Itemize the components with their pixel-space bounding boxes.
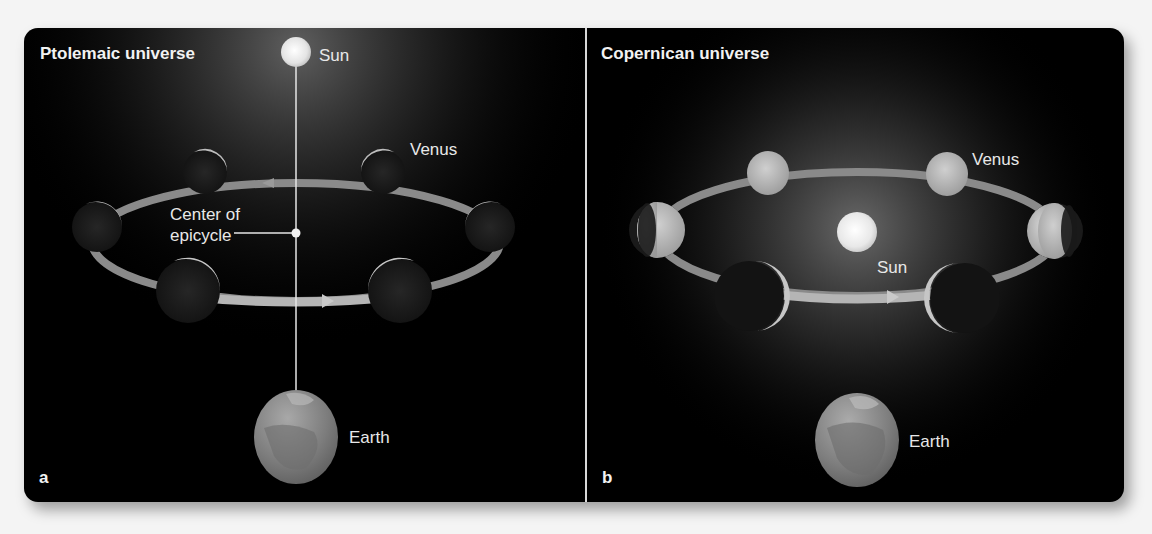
sun-icon	[837, 212, 877, 252]
earth-label: Earth	[909, 432, 950, 452]
ptolemaic-diagram	[24, 28, 585, 502]
venus-phase-full-icon	[926, 152, 968, 196]
venus-label: Venus	[410, 140, 457, 160]
sun-label: Sun	[877, 258, 907, 278]
sun-icon	[281, 37, 311, 67]
venus-phases-figure: Ptolemaic universe Sun Venus Center of e…	[24, 28, 1124, 502]
epicycle-center-dot	[292, 229, 301, 238]
sun-label: Sun	[319, 46, 349, 66]
panel-letter: a	[39, 468, 48, 488]
venus-label: Venus	[972, 150, 1019, 170]
panel-letter: b	[602, 468, 612, 488]
earth-icon	[815, 393, 899, 487]
venus-phase-gibbous-icon	[629, 202, 685, 258]
center-of-epicycle-label-line1: Center of	[170, 205, 240, 225]
copernican-diagram	[587, 28, 1124, 502]
earth-label: Earth	[349, 428, 390, 448]
panel-title: Ptolemaic universe	[40, 44, 195, 64]
venus-phase-gibbous-icon	[1027, 203, 1083, 259]
venus-phase-full-icon	[747, 151, 789, 195]
center-of-epicycle-label-line2: epicycle	[170, 226, 231, 246]
panel-title: Copernican universe	[601, 44, 769, 64]
panel-ptolemaic: Ptolemaic universe Sun Venus Center of e…	[24, 28, 585, 502]
venus-phase-crescent-icon	[714, 261, 790, 331]
earth-icon	[254, 390, 338, 484]
panel-copernican: Copernican universe Venus Sun Earth b	[587, 28, 1124, 502]
venus-phase-crescent-icon	[924, 263, 1000, 333]
